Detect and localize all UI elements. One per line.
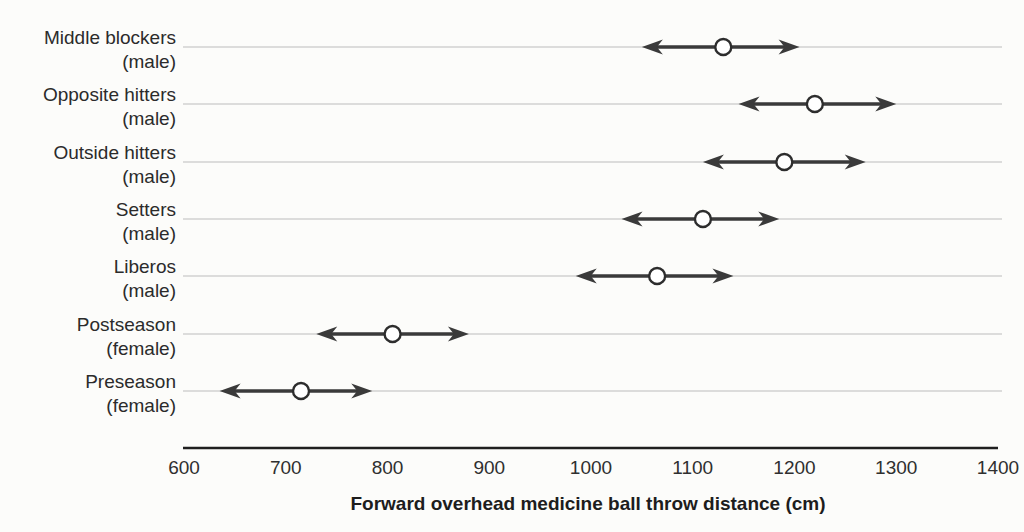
category-sublabel: (male) — [122, 108, 176, 129]
category-label: Preseason — [85, 371, 176, 392]
category-sublabel: (male) — [122, 280, 176, 301]
x-tick-label: 800 — [372, 457, 404, 478]
category-sublabel: (female) — [106, 395, 176, 416]
mean-marker — [385, 326, 401, 342]
mean-marker — [776, 154, 792, 170]
category-label: Opposite hitters — [43, 84, 176, 105]
mean-marker — [715, 39, 731, 55]
mean-marker — [293, 383, 309, 399]
category-sublabel: (male) — [122, 166, 176, 187]
x-tick-label: 1200 — [773, 457, 815, 478]
x-tick-label: 900 — [473, 457, 505, 478]
x-tick-label: 1300 — [875, 457, 917, 478]
mean-marker — [807, 96, 823, 112]
mean-marker — [695, 211, 711, 227]
category-label: Middle blockers — [44, 27, 176, 48]
x-tick-label: 1100 — [672, 457, 713, 478]
category-label: Postseason — [77, 314, 176, 335]
x-tick-label: 700 — [270, 457, 302, 478]
category-sublabel: (female) — [106, 338, 176, 359]
mean-marker — [649, 268, 665, 284]
category-label: Liberos — [114, 256, 176, 277]
category-label: Setters — [116, 199, 176, 220]
x-tick-label: 600 — [168, 457, 200, 478]
x-tick-label: 1400 — [977, 457, 1019, 478]
chart-figure: Middle blockers(male)Opposite hitters(ma… — [0, 0, 1024, 532]
category-sublabel: (male) — [122, 51, 176, 72]
x-tick-label: 1000 — [570, 457, 612, 478]
x-axis-title: Forward overhead medicine ball throw dis… — [350, 493, 825, 514]
category-label: Outside hitters — [54, 142, 177, 163]
dot-range-chart: Middle blockers(male)Opposite hitters(ma… — [0, 0, 1024, 532]
category-sublabel: (male) — [122, 223, 176, 244]
